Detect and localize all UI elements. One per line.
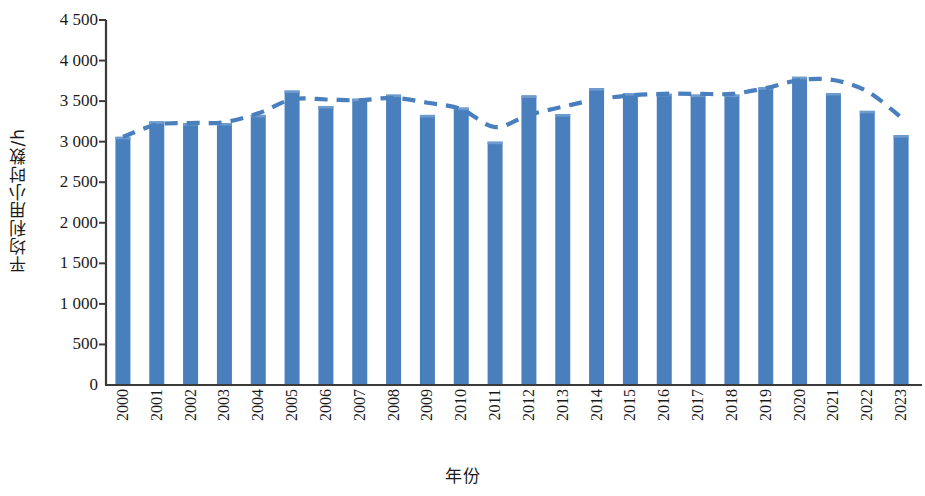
bar[interactable] (217, 123, 232, 385)
x-tick-label-text: 2020 (791, 389, 809, 421)
bar[interactable] (454, 108, 469, 385)
x-tick-label-text: 2009 (418, 389, 436, 421)
chart-container: 平均利用小时数/h 05001 0001 5002 0002 5003 0003… (0, 0, 925, 496)
x-tick-label: 2011 (486, 389, 504, 445)
x-tick-label: 2022 (858, 389, 876, 445)
x-axis-title-text: 年份 (445, 466, 481, 486)
y-tick-label: 2 500 (26, 173, 98, 190)
x-tick-label-text: 2002 (182, 389, 200, 421)
x-axis-title: 年份 (0, 462, 925, 487)
x-tick-label: 2009 (418, 389, 436, 445)
bar[interactable] (860, 111, 875, 385)
x-tick-label-text: 2017 (689, 389, 707, 421)
x-tick-label-text: 2022 (858, 389, 876, 421)
x-tick-label-text: 2006 (317, 389, 335, 421)
y-tick-label: 4 500 (26, 11, 98, 28)
x-tick-label: 2021 (824, 389, 842, 445)
bar-top-highlight (521, 95, 536, 98)
x-tick-label: 2003 (215, 389, 233, 445)
x-tick-label: 2014 (588, 389, 606, 445)
y-tick-label: 0 (26, 376, 98, 393)
x-tick-label: 2019 (757, 389, 775, 445)
bar[interactable] (657, 94, 672, 385)
x-tick-label: 2018 (723, 389, 741, 445)
bar[interactable] (691, 95, 706, 385)
bar[interactable] (251, 115, 266, 385)
x-tick-label: 2020 (791, 389, 809, 445)
x-tick-label: 2000 (114, 389, 132, 445)
bar[interactable] (623, 93, 638, 385)
x-tick-label: 2017 (689, 389, 707, 445)
x-axis-tick-labels: 2000200120022003200420052006200720082009… (106, 389, 918, 447)
trend-line[interactable] (123, 79, 901, 137)
y-tick-label: 4 000 (26, 52, 98, 69)
x-tick-label: 2016 (655, 389, 673, 445)
bar-top-highlight (555, 114, 570, 117)
y-tick-label: 1 500 (26, 254, 98, 271)
x-tick-label: 2006 (317, 389, 335, 445)
bar[interactable] (149, 121, 164, 385)
x-tick-label: 2023 (892, 389, 910, 445)
x-tick-label: 2013 (554, 389, 572, 445)
x-tick-label-text: 2019 (757, 389, 775, 421)
bar[interactable] (589, 88, 604, 385)
bar-top-highlight (285, 91, 300, 94)
x-tick-label-text: 2005 (283, 389, 301, 421)
x-tick-label: 2004 (249, 389, 267, 445)
x-tick-label: 2012 (520, 389, 538, 445)
x-tick-label-text: 2011 (486, 389, 504, 420)
plot-svg (106, 20, 918, 385)
y-tick-label: 2 000 (26, 214, 98, 231)
x-tick-label-text: 2003 (215, 389, 233, 421)
bar[interactable] (318, 106, 333, 385)
x-tick-label-text: 2016 (655, 389, 673, 421)
x-tick-label-text: 2004 (249, 389, 267, 421)
bar[interactable] (183, 123, 198, 385)
x-tick-label-text: 2023 (892, 389, 910, 421)
bar[interactable] (420, 115, 435, 385)
bar[interactable] (894, 135, 909, 385)
x-tick-label-text: 2015 (621, 389, 639, 421)
bar[interactable] (285, 91, 300, 385)
bar[interactable] (555, 114, 570, 385)
y-tick-label: 3 500 (26, 92, 98, 109)
bar[interactable] (488, 142, 503, 385)
plot-area (106, 20, 918, 385)
x-tick-label: 2007 (351, 389, 369, 445)
y-tick-label: 1 000 (26, 295, 98, 312)
y-axis-tick-labels: 05001 0001 5002 0002 5003 0003 5004 0004… (26, 0, 98, 400)
bar-top-highlight (826, 93, 841, 96)
bar[interactable] (792, 77, 807, 385)
x-tick-label-text: 2021 (824, 389, 842, 421)
x-tick-label: 2002 (182, 389, 200, 445)
y-tick-label: 3 000 (26, 133, 98, 150)
x-tick-label-text: 2013 (554, 389, 572, 421)
bar[interactable] (758, 87, 773, 385)
bar-top-highlight (860, 111, 875, 114)
y-axis-ticks (99, 20, 106, 385)
bar[interactable] (115, 137, 130, 385)
bar-top-highlight (488, 142, 503, 145)
bar-top-highlight (894, 135, 909, 138)
bar[interactable] (386, 95, 401, 385)
x-tick-label-text: 2010 (452, 389, 470, 421)
x-tick-label: 2015 (621, 389, 639, 445)
y-tick-label: 500 (26, 335, 98, 352)
x-tick-label-text: 2008 (385, 389, 403, 421)
x-tick-label-text: 2001 (148, 389, 166, 421)
bar[interactable] (352, 99, 367, 385)
x-tick-label-text: 2014 (588, 389, 606, 421)
bar[interactable] (826, 93, 841, 385)
bar-top-highlight (420, 115, 435, 118)
x-tick-label-text: 2018 (723, 389, 741, 421)
x-tick-label-text: 2007 (351, 389, 369, 421)
bar-top-highlight (149, 121, 164, 124)
trend-line-group (123, 79, 901, 137)
bar[interactable] (724, 95, 739, 385)
x-tick-label: 2010 (452, 389, 470, 445)
bar-top-highlight (115, 137, 130, 140)
x-tick-label-text: 2012 (520, 389, 538, 421)
x-tick-label-text: 2000 (114, 389, 132, 421)
bar[interactable] (521, 95, 536, 385)
x-tick-label: 2005 (283, 389, 301, 445)
